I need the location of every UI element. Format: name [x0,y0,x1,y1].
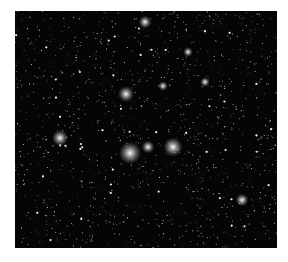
bright-galaxy [119,142,141,164]
bright-galaxy [183,47,193,57]
bright-galaxy [118,86,134,102]
bright-galaxy [142,141,155,154]
bright-galaxy [52,130,68,146]
bright-galaxy [139,16,152,29]
bright-galaxy [236,194,249,207]
deep-field-image [15,11,277,248]
bright-galaxy [158,81,168,91]
star-field [15,11,277,248]
bright-galaxy [163,137,182,156]
bright-galaxy [200,77,210,87]
